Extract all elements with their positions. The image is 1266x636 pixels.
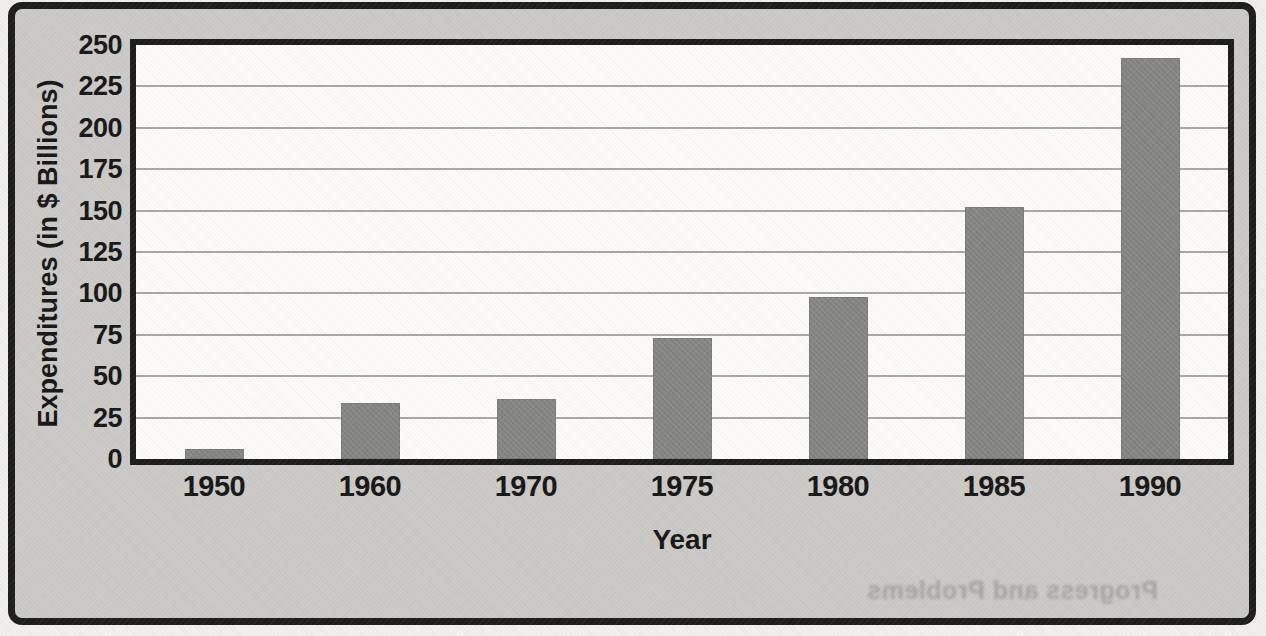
y-tick-label-250: 250	[78, 30, 122, 61]
y-tick-label-175: 175	[78, 154, 122, 185]
bar-1950	[185, 449, 244, 459]
y-tick-label-200: 200	[78, 112, 122, 143]
bar-slot-1950	[136, 45, 292, 459]
plot-area	[130, 39, 1234, 465]
scanned-page: Expenditures (in $ Billions) 02550751001…	[0, 0, 1266, 636]
y-tick-label-50: 50	[93, 361, 122, 392]
x-axis-ticks: 1950196019701975198019851990	[136, 470, 1228, 508]
y-tick-label-100: 100	[78, 278, 122, 309]
y-tick-label-150: 150	[78, 195, 122, 226]
y-tick-label-25: 25	[93, 402, 122, 433]
x-tick-label-1950: 1950	[136, 470, 292, 508]
bar-slot-1975	[604, 45, 760, 459]
y-tick-label-225: 225	[78, 71, 122, 102]
bar-1960	[341, 403, 400, 459]
x-tick-label-1990: 1990	[1072, 470, 1228, 508]
x-tick-label-1980: 1980	[760, 470, 916, 508]
plot-inner	[136, 45, 1228, 459]
bar-slot-1985	[916, 45, 1072, 459]
y-tick-label-0: 0	[107, 444, 122, 475]
bars-row	[136, 45, 1228, 459]
bleed-through-text: Progress and Problems	[828, 576, 1158, 605]
bar-1980	[809, 297, 868, 459]
bar-1975	[653, 338, 712, 459]
x-tick-label-1985: 1985	[916, 470, 1072, 508]
bar-1990	[1121, 58, 1180, 459]
bar-slot-1970	[448, 45, 604, 459]
x-axis-title: Year	[136, 524, 1228, 556]
y-axis-ticks: 0255075100125150175200225250	[30, 45, 122, 459]
bar-slot-1960	[292, 45, 448, 459]
bar-slot-1990	[1072, 45, 1228, 459]
x-tick-label-1975: 1975	[604, 470, 760, 508]
y-tick-label-125: 125	[78, 237, 122, 268]
bar-1970	[497, 399, 556, 459]
y-tick-label-75: 75	[93, 319, 122, 350]
x-tick-label-1970: 1970	[448, 470, 604, 508]
x-tick-label-1960: 1960	[292, 470, 448, 508]
bar-slot-1980	[760, 45, 916, 459]
bar-1985	[965, 207, 1024, 459]
